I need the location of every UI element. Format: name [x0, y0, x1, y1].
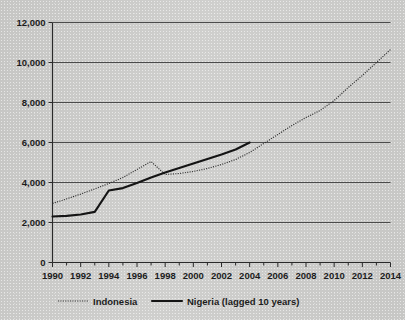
x-axis-ticks — [53, 263, 391, 268]
y-axis-label-4000: 4,000 — [22, 177, 46, 188]
chart-legend: IndonesiaNigeria (lagged 10 years) — [58, 296, 299, 307]
y-axis-label-0: 0 — [40, 257, 45, 268]
y-axis-tick-labels: 02,0004,0006,0008,00010,00012,000 — [16, 17, 45, 268]
chart-canvas: 02,0004,0006,0008,00010,00012,000 199019… — [0, 0, 405, 320]
line-chart: 02,0004,0006,0008,00010,00012,000 199019… — [0, 0, 405, 320]
x-axis-label-2006: 2006 — [267, 270, 288, 281]
series-line-0 — [53, 50, 391, 204]
x-axis-label-2004: 2004 — [239, 270, 261, 281]
y-axis-label-10000: 10,000 — [16, 57, 45, 68]
series-lines — [53, 50, 391, 217]
x-axis-label-2014: 2014 — [380, 270, 402, 281]
x-axis-label-1990: 1990 — [42, 270, 63, 281]
y-axis-label-12000: 12,000 — [16, 17, 45, 28]
y-axis-label-6000: 6,000 — [22, 137, 46, 148]
x-axis-label-1992: 1992 — [70, 270, 91, 281]
x-axis-tick-labels: 1990199219941996199820002002200420062008… — [42, 270, 402, 281]
series-line-1 — [53, 143, 250, 217]
x-axis-label-2000: 2000 — [183, 270, 204, 281]
x-axis-label-2010: 2010 — [324, 270, 345, 281]
x-axis-label-1994: 1994 — [98, 270, 120, 281]
x-axis-label-1996: 1996 — [126, 270, 147, 281]
x-axis-label-1998: 1998 — [155, 270, 176, 281]
x-axis-label-2002: 2002 — [211, 270, 232, 281]
y-axis-label-8000: 8,000 — [22, 97, 46, 108]
y-axis-label-2000: 2,000 — [22, 217, 46, 228]
gridlines — [53, 23, 391, 223]
x-axis-label-2012: 2012 — [352, 270, 373, 281]
legend-label-0: Indonesia — [93, 296, 138, 307]
legend-label-1: Nigeria (lagged 10 years) — [187, 296, 299, 307]
x-axis-label-2008: 2008 — [295, 270, 316, 281]
